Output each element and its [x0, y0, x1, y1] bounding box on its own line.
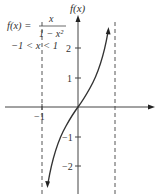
- y-axis-arrow-icon: [76, 15, 81, 22]
- formula-numerator: x: [48, 13, 54, 24]
- formula-denominator: 1 − x²: [39, 28, 64, 39]
- formula-domain: −1 < x < 1: [11, 40, 58, 51]
- curve-arrow-top-icon: [106, 27, 111, 35]
- y-tick-label-1: 1: [67, 73, 72, 84]
- x-tick-label-m1: −1: [34, 111, 45, 122]
- formula-lhs: f(x) =: [7, 20, 31, 32]
- function-graph: 2 1 −1 −2 −1 f(x) f(x) = x 1 − x² −1 < x…: [0, 0, 156, 196]
- x-axis-arrow-icon: [148, 105, 155, 110]
- y-tick-label-m1: −1: [62, 132, 73, 143]
- curve-arrow-bottom-icon: [45, 181, 50, 188]
- y-tick-label-m2: −2: [62, 161, 73, 172]
- y-axis-label: f(x): [70, 2, 86, 15]
- y-tick-label-2: 2: [66, 43, 71, 54]
